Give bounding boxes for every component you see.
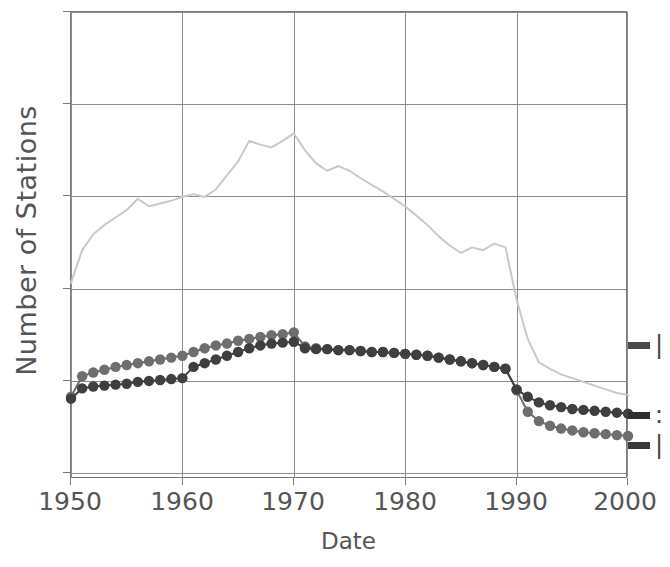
data-point-marker [433,352,443,362]
data-point-marker [333,345,343,355]
data-point-marker [289,327,299,337]
data-point-marker [300,343,310,353]
data-point-marker [66,393,76,403]
data-point-marker [322,344,332,354]
x-tick [293,478,294,485]
data-point-marker [534,416,544,426]
data-point-marker [489,362,499,372]
y-tick [63,195,70,196]
data-point-marker [378,347,388,357]
legend-swatch-icon [628,342,650,349]
data-point-marker [199,358,209,368]
data-point-marker [166,374,176,384]
chart-figure: Number of Stations 1950 1960 1970 1980 1… [0,0,670,567]
data-point-marker [612,407,622,417]
data-point-marker [567,404,577,414]
data-point-marker [133,377,143,387]
data-point-marker [188,362,198,372]
legend-item-dark-series[interactable]: : [628,403,663,427]
data-point-marker [199,343,209,353]
data-point-marker [545,400,555,410]
data-point-marker [99,380,109,390]
series-light-gray-series [71,133,628,395]
data-point-marker [211,354,221,364]
x-tick-label: 1960 [142,487,222,516]
plot-area [70,11,627,478]
data-point-marker [523,392,533,402]
x-tick-label: 1970 [253,487,333,516]
data-point-marker [601,429,611,439]
data-point-marker [289,337,299,347]
series-canvas [71,12,628,479]
data-point-marker [578,405,588,415]
data-point-marker [244,343,254,353]
y-tick [63,380,70,381]
data-point-marker [389,348,399,358]
data-point-marker [511,384,521,394]
x-tick [182,478,183,485]
x-tick [516,478,517,485]
legend-label: : [655,403,663,427]
data-point-marker [188,347,198,357]
data-point-marker [277,337,287,347]
data-point-marker [177,351,187,361]
x-tick [70,478,71,485]
legend-label: | [655,333,663,357]
data-point-marker [355,346,365,356]
data-point-marker [244,334,254,344]
data-point-marker [367,347,377,357]
data-point-marker [211,340,221,350]
data-point-marker [601,407,611,417]
x-tick-label: 1990 [476,487,556,516]
data-point-marker [589,428,599,438]
data-point-marker [422,351,432,361]
y-axis-label: Number of Stations [11,105,42,376]
legend-swatch-icon [628,412,650,419]
data-point-marker [589,406,599,416]
data-point-marker [88,381,98,391]
y-axis-label-container: Number of Stations [0,0,54,480]
data-point-marker [612,430,622,440]
data-point-marker [445,354,455,364]
data-point-marker [456,356,466,366]
data-point-marker [478,360,488,370]
data-point-marker [266,338,276,348]
data-point-marker [222,351,232,361]
data-point-marker [311,344,321,354]
data-point-marker [556,423,566,433]
data-point-marker [110,379,120,389]
data-point-marker [77,383,87,393]
chart-legend: | : | [628,0,670,567]
legend-item-light-series[interactable]: | [628,333,663,357]
data-point-marker [556,402,566,412]
data-point-marker [144,356,154,366]
x-tick-label: 1950 [30,487,110,516]
data-point-marker [122,379,132,389]
data-point-marker [567,425,577,435]
data-point-marker [155,354,165,364]
series-dark-gray-series [66,337,633,419]
data-point-marker [534,397,544,407]
y-tick [63,472,70,473]
legend-swatch-icon [628,442,650,449]
legend-label: | [655,433,663,457]
data-point-marker [77,371,87,381]
data-point-marker [122,360,132,370]
data-point-marker [155,375,165,385]
data-point-marker [411,350,421,360]
data-point-marker [222,338,232,348]
data-point-marker [233,347,243,357]
data-point-marker [344,345,354,355]
data-point-marker [177,373,187,383]
legend-item-medium-series[interactable]: | [628,433,663,457]
data-point-marker [233,336,243,346]
data-point-marker [545,421,555,431]
x-tick-label: 1980 [365,487,445,516]
data-point-marker [144,376,154,386]
data-point-marker [88,367,98,377]
data-point-marker [133,358,143,368]
x-tick [405,478,406,485]
series-line [71,133,628,395]
data-point-marker [467,358,477,368]
data-point-marker [400,349,410,359]
